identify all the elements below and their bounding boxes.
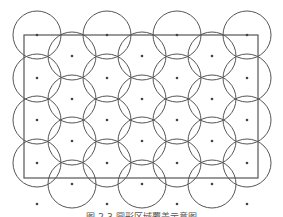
center-dot: [36, 77, 39, 80]
center-dot: [106, 119, 109, 122]
center-dot: [176, 119, 179, 122]
center-dot: [246, 203, 249, 206]
center-dot: [71, 55, 74, 58]
center-dot: [106, 77, 109, 80]
center-dot: [71, 98, 74, 101]
center-dot: [71, 183, 74, 186]
center-dot: [246, 119, 249, 122]
center-dot: [211, 183, 214, 186]
center-dot: [211, 55, 214, 58]
center-dots: [36, 34, 249, 206]
center-dot: [106, 34, 109, 37]
center-dot: [246, 77, 249, 80]
center-dot: [106, 162, 109, 165]
center-dot: [176, 162, 179, 165]
center-dot: [36, 203, 39, 206]
center-dot: [141, 183, 144, 186]
figure-caption: 图 2-3 圆形区域覆盖示意图: [0, 211, 283, 217]
center-dot: [176, 34, 179, 37]
center-dot: [211, 140, 214, 143]
center-dot: [36, 34, 39, 37]
coverage-diagram: [0, 0, 283, 217]
center-dot: [176, 203, 179, 206]
center-dot: [71, 140, 74, 143]
center-dot: [211, 98, 214, 101]
center-dot: [36, 162, 39, 165]
center-dot: [246, 34, 249, 37]
center-dot: [36, 119, 39, 122]
center-dot: [246, 162, 249, 165]
center-dot: [106, 203, 109, 206]
center-dot: [141, 98, 144, 101]
center-dot: [141, 55, 144, 58]
center-dot: [141, 140, 144, 143]
center-dot: [176, 77, 179, 80]
